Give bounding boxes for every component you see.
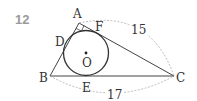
length-ac: 15: [131, 23, 146, 37]
center-dot: [85, 52, 88, 55]
label-a: A: [72, 7, 82, 21]
geometry-figure: 12 A F D O B C E 15 17: [0, 0, 197, 101]
label-f: F: [95, 20, 103, 34]
label-b: B: [39, 71, 48, 85]
label-c: C: [176, 71, 185, 85]
length-bc: 17: [107, 88, 122, 101]
label-e: E: [82, 81, 91, 95]
problem-number: 12: [15, 12, 29, 27]
label-d: D: [55, 35, 65, 49]
label-o: O: [82, 56, 92, 70]
